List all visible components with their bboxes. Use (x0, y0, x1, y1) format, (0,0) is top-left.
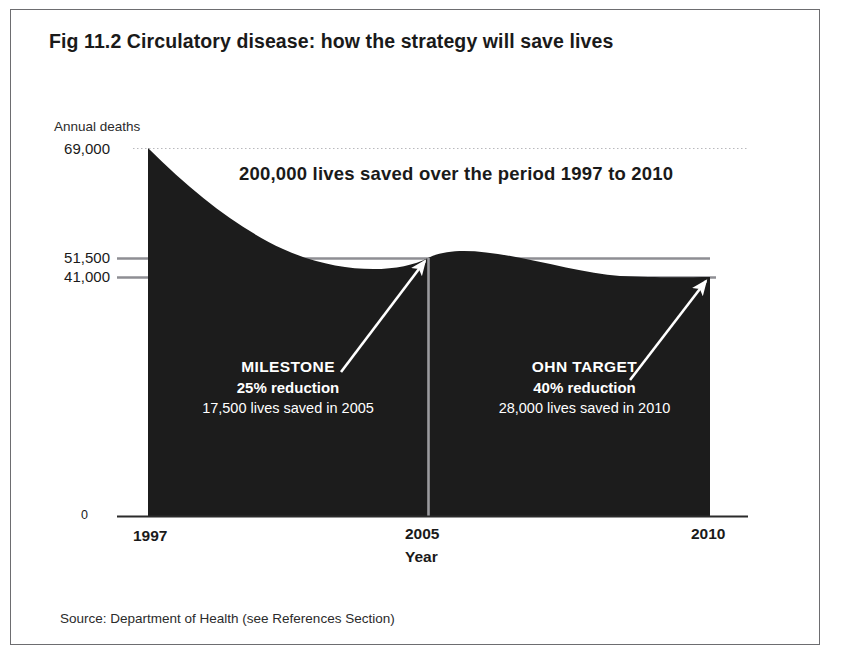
milestone-annotation: MILESTONE 25% reduction 17,500 lives sav… (163, 357, 413, 419)
x-tick-label-2005: 2005 (405, 525, 439, 543)
figure-root: Fig 11.2 Circulatory disease: how the st… (0, 0, 841, 660)
x-tick-label-1997: 1997 (133, 527, 167, 545)
ohn-target-annotation-subtitle: 40% reduction (452, 377, 717, 398)
x-axis-title: Year (405, 548, 438, 566)
ohn-target-annotation: OHN TARGET 40% reduction 28,000 lives sa… (452, 357, 717, 419)
y-tick-label-51500: 51,500 (10, 249, 110, 266)
milestone-annotation-detail: 17,500 lives saved in 2005 (163, 398, 413, 419)
ohn-target-annotation-detail: 28,000 lives saved in 2010 (452, 398, 717, 419)
milestone-annotation-title: MILESTONE (163, 357, 413, 377)
x-tick-label-2010: 2010 (691, 525, 725, 543)
chart-headline: 200,000 lives saved over the period 1997… (239, 163, 673, 185)
y-tick-label-41000: 41,000 (10, 268, 110, 285)
y-tick-label-69000: 69,000 (10, 140, 110, 157)
figure-title: Fig 11.2 Circulatory disease: how the st… (49, 30, 613, 53)
y-tick-label-0: 0 (10, 508, 88, 522)
ohn-target-annotation-title: OHN TARGET (452, 357, 717, 377)
y-axis-title: Annual deaths (54, 119, 140, 134)
milestone-annotation-subtitle: 25% reduction (163, 377, 413, 398)
source-note: Source: Department of Health (see Refere… (60, 611, 395, 626)
